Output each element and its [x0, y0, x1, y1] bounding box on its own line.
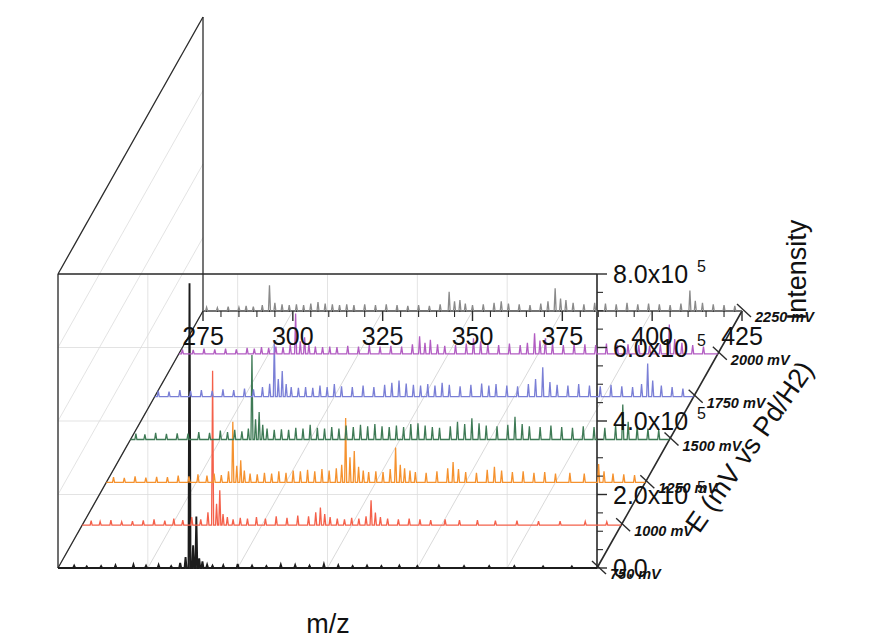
- y-tick-label: 4.0x105: [613, 405, 706, 435]
- svg-text:4.0x10: 4.0x10: [613, 407, 688, 435]
- x-axis-title: m/z: [306, 609, 350, 639]
- x-tick-label: 350: [452, 322, 494, 350]
- svg-text:6.0x10: 6.0x10: [613, 334, 688, 362]
- x-tick-label: 425: [721, 322, 763, 350]
- axis-tick-labels: 2753003253503754004250.02.0x1054.0x1056.…: [182, 258, 815, 582]
- chart-canvas: 2753003253503754004250.02.0x1054.0x1056.…: [0, 0, 877, 641]
- z-tick-label: 750 mV: [610, 566, 662, 582]
- x-tick-label: 300: [272, 322, 314, 350]
- svg-text:8.0x10: 8.0x10: [613, 260, 688, 288]
- x-tick-label: 375: [541, 322, 583, 350]
- x-tick-label: 325: [362, 322, 404, 350]
- z-tick-label: 2000 mV: [730, 352, 791, 368]
- y-tick-label: 8.0x105: [613, 258, 706, 288]
- svg-text:5: 5: [697, 405, 706, 422]
- x-tick-label: 275: [182, 322, 224, 350]
- svg-text:5: 5: [697, 332, 706, 349]
- y-axis-title: Intensity: [782, 219, 812, 320]
- mass-spectra-waterfall-chart: 2753003253503754004250.02.0x1054.0x1056.…: [0, 0, 877, 641]
- svg-text:5: 5: [697, 258, 706, 275]
